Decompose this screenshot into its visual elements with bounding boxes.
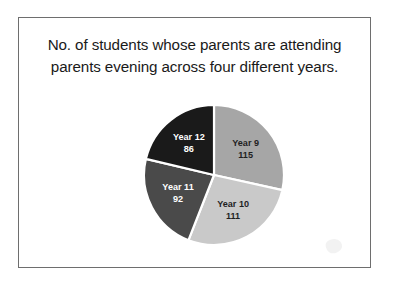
pie-slice-label-year-11: Year 11: [162, 182, 193, 192]
pie-chart-svg: Year 9115Year 10111Year 1192Year 1286: [143, 101, 285, 249]
pie-slice-label-year-12: Year 12: [173, 132, 205, 142]
pie-slice-value-year-9: 115: [238, 150, 253, 160]
pie-slice-label-year-9: Year 9: [232, 138, 259, 148]
pie-slice-label-year-10: Year 10: [217, 199, 249, 209]
pie-slice-value-year-12: 86: [184, 144, 194, 154]
pie-slice-group: [144, 105, 284, 245]
pie-slice-value-year-10: 111: [226, 211, 240, 221]
page-title-line-1: No. of students whose parents are attend…: [27, 34, 362, 56]
pie-slice-value-year-11: 92: [173, 194, 183, 204]
page-title: No. of students whose parents are attend…: [19, 34, 370, 77]
page-title-line-2: parents evening across four different ye…: [27, 56, 362, 78]
scan-artifact: [324, 237, 344, 255]
pie-chart: Year 9115Year 10111Year 1192Year 1286: [143, 101, 285, 249]
chart-frame: No. of students whose parents are attend…: [18, 17, 371, 268]
